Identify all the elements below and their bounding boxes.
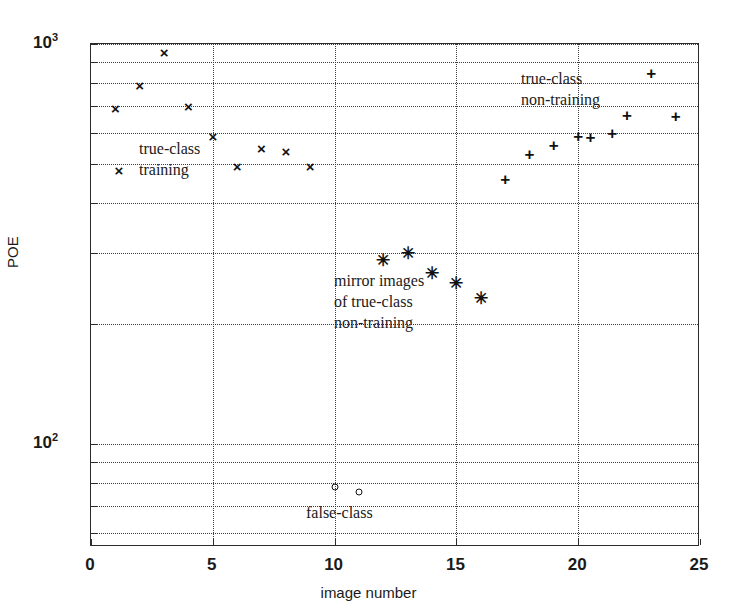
data-point-*: ✳ <box>401 245 415 262</box>
data-point-*: ✳ <box>474 289 488 306</box>
y-tick-mark <box>91 164 97 165</box>
y-tick-mark <box>91 506 97 507</box>
y-tick-mark <box>91 83 97 84</box>
data-point-x: × <box>135 77 144 92</box>
x-tick-mark <box>456 539 457 545</box>
data-point-+: + <box>525 146 535 163</box>
gridline-vertical <box>456 44 457 545</box>
x-tick-label: 10 <box>324 555 343 575</box>
data-point-*: ✳ <box>376 252 390 269</box>
annotation-true-class-non-training-line-2: non-training <box>521 91 600 109</box>
gridline-horizontal <box>91 483 698 484</box>
gridline-horizontal <box>91 62 698 63</box>
data-point-x: × <box>282 144 291 159</box>
data-point-x: × <box>160 45 169 60</box>
data-point-x: × <box>111 101 120 116</box>
annotation-true-class-non-training-line-1: true-class <box>521 70 582 88</box>
annotation-mirror-images-line-2: of true-class <box>334 293 413 311</box>
y-tick-mark <box>91 62 97 63</box>
data-point-x: × <box>233 159 242 174</box>
gridline-horizontal <box>91 203 698 204</box>
data-point-+: + <box>622 106 632 123</box>
y-tick-mark <box>91 44 97 45</box>
gridline-horizontal <box>91 444 698 445</box>
x-tick-label: 0 <box>85 555 94 575</box>
data-point-o <box>331 484 338 491</box>
x-tick-mark <box>91 539 92 545</box>
gridline-horizontal <box>91 462 698 463</box>
data-point-+: + <box>607 124 617 141</box>
data-point-+: + <box>671 108 681 125</box>
x-tick-mark <box>700 539 701 545</box>
data-point-+: + <box>585 129 595 146</box>
gridline-horizontal <box>91 44 698 45</box>
y-axis-title: POE <box>4 236 21 268</box>
data-point-o <box>356 488 363 495</box>
x-axis-title: image number <box>0 584 737 601</box>
legend-glyph-x: × <box>115 162 124 179</box>
data-point-+: + <box>646 65 656 82</box>
y-tick-mark <box>91 483 97 484</box>
y-tick-mark <box>91 253 97 254</box>
x-tick-mark <box>213 539 214 545</box>
y-tick-mark <box>91 533 97 534</box>
data-point-x: × <box>208 128 217 143</box>
y-tick-mark <box>91 444 97 445</box>
y-tick-mark <box>91 106 97 107</box>
x-tick-label: 20 <box>568 555 587 575</box>
plot-area: ×××××××××✳✳✳✳✳+++++++++ true-classtraini… <box>90 43 699 546</box>
data-point-+: + <box>500 170 510 187</box>
y-tick-mark <box>91 324 97 325</box>
x-tick-mark <box>335 539 336 545</box>
gridline-horizontal <box>91 106 698 107</box>
data-point-x: × <box>257 140 266 155</box>
gridline-horizontal <box>91 253 698 254</box>
data-point-+: + <box>549 136 559 153</box>
gridline-vertical <box>578 44 579 545</box>
data-point-x: × <box>184 98 193 113</box>
y-tick-mark <box>91 203 97 204</box>
figure-canvas: POE ×××××××××✳✳✳✳✳+++++++++ true-classtr… <box>0 0 737 616</box>
gridline-vertical <box>213 44 214 545</box>
gridline-horizontal <box>91 533 698 534</box>
gridline-horizontal <box>91 506 698 507</box>
data-point-x: × <box>306 159 315 174</box>
annotation-true-class-training-line-1: true-class <box>139 140 200 158</box>
annotation-mirror-images-line-3: non-training <box>334 314 413 332</box>
data-point-+: + <box>573 127 583 144</box>
x-tick-label: 25 <box>690 555 709 575</box>
x-tick-mark <box>578 539 579 545</box>
data-point-*: ✳ <box>425 264 439 281</box>
y-tick-mark <box>91 462 97 463</box>
annotation-false-class-line-1: false-class <box>306 504 373 522</box>
data-point-*: ✳ <box>449 274 463 291</box>
y-tick-mark <box>91 133 97 134</box>
annotation-mirror-images-line-1: mirror images <box>334 272 424 290</box>
annotation-true-class-training-line-2: training <box>139 161 189 179</box>
x-tick-label: 15 <box>446 555 465 575</box>
gridline-horizontal <box>91 83 698 84</box>
x-tick-label: 5 <box>207 555 216 575</box>
